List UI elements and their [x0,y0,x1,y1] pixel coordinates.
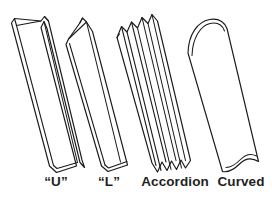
label-accordion: Accordion [135,174,215,189]
caption-row: “U” “L” Accordion Curved [0,174,272,198]
label-l-angle: “L” [85,174,133,189]
figure-container: “U” “L” Accordion Curved [0,0,272,203]
label-curved: Curved [212,174,270,189]
shape-accordion [117,15,191,173]
shape-curved [188,19,259,172]
label-u-channel: “U” [32,174,80,189]
profile-shapes-illustration [0,0,272,203]
